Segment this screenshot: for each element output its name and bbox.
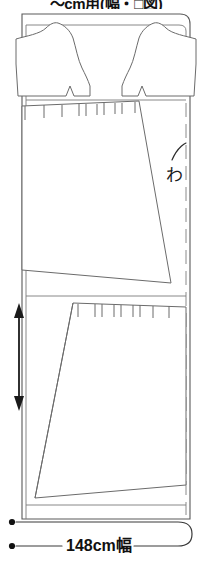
pattern-piece-bodice-left [16, 23, 90, 96]
pattern-piece-bodice-right [122, 23, 196, 96]
fold-symbol-wa: わ [166, 167, 183, 184]
bracket-dot-top [9, 519, 15, 525]
fold-arc-symbol [172, 143, 186, 160]
pattern-layout-page: 〜cm用(幅・□図) [0, 0, 212, 561]
pattern-piece-skirt-upper [22, 101, 171, 283]
bracket-dot-bottom [9, 543, 15, 549]
pattern-piece-skirt-lower [35, 303, 186, 498]
fabric-width-label: 148cm幅 [66, 538, 132, 554]
cutting-layout-diagram [0, 0, 212, 561]
